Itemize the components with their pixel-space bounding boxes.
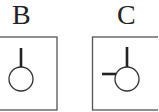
panel-b bbox=[0, 37, 57, 110]
panel-c bbox=[93, 37, 159, 110]
diagram-canvas bbox=[0, 0, 158, 112]
circle-icon bbox=[9, 67, 33, 91]
circle-icon bbox=[115, 67, 139, 91]
